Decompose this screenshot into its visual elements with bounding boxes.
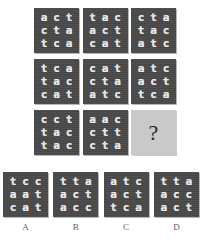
tile-letter: t: [112, 38, 124, 50]
tile-row: act: [135, 76, 172, 88]
tile-letter: a: [7, 189, 19, 201]
tile-letter: a: [20, 202, 32, 214]
tile-letter: c: [32, 176, 44, 188]
tile-row: tta: [158, 176, 195, 188]
tile-letter: c: [87, 140, 99, 152]
tile-letter: t: [160, 76, 172, 88]
tile-letter: t: [112, 25, 124, 37]
tile-letter: a: [51, 89, 63, 101]
tile-letter: t: [120, 176, 132, 188]
tile-letter: a: [51, 76, 63, 88]
tile-letter: t: [99, 89, 111, 101]
tile-letter: t: [135, 25, 147, 37]
tile-letter: c: [87, 38, 99, 50]
tile-letter: t: [112, 127, 124, 139]
tile-letter: t: [38, 38, 50, 50]
tile-row: aat: [7, 189, 44, 201]
tile-row: act: [38, 12, 75, 24]
tile-letter: a: [51, 140, 63, 152]
tile-letter: c: [63, 140, 75, 152]
tile-letter: t: [170, 176, 182, 188]
tile-letter: t: [158, 176, 170, 188]
tile-row: tta: [57, 176, 94, 188]
matrix-cell-1-1: actctatca: [34, 8, 79, 53]
tile-letter: c: [170, 202, 182, 214]
tile-letter: t: [38, 127, 50, 139]
tile-letter: a: [133, 202, 145, 214]
tile-row: cat: [38, 89, 75, 101]
tile-row: cct: [38, 114, 75, 126]
tile-row: act: [87, 25, 124, 37]
tile-row: act: [158, 202, 195, 214]
tile-letter: c: [120, 189, 132, 201]
option-b[interactable]: ttaactacc: [53, 172, 98, 217]
option-c-label: C: [104, 222, 149, 233]
tile-letter: c: [87, 63, 99, 75]
tile-letter: c: [51, 114, 63, 126]
tile-letter: c: [70, 189, 82, 201]
tile-letter: t: [63, 89, 75, 101]
tile-row: cat: [87, 63, 124, 75]
tile-row: atc: [87, 89, 124, 101]
tile-letter: a: [148, 25, 160, 37]
tile-letter: t: [57, 176, 69, 188]
tile-letter: c: [183, 189, 195, 201]
tile-letter: c: [99, 25, 111, 37]
tile-letter: c: [133, 176, 145, 188]
tile-letter: t: [135, 89, 147, 101]
tile-letter: t: [87, 12, 99, 24]
option-a-label: A: [3, 222, 48, 233]
tile-letter: a: [87, 89, 99, 101]
tile-letter: t: [148, 38, 160, 50]
matrix-cell-3-3[interactable]: ?: [131, 110, 176, 155]
tile-letter: c: [112, 114, 124, 126]
tile-letter: c: [38, 114, 50, 126]
tile-letter: c: [170, 189, 182, 201]
tile-letter: a: [158, 202, 170, 214]
tile-row: tcc: [7, 176, 44, 188]
tile-letter: c: [160, 25, 172, 37]
tile-letter: t: [32, 202, 44, 214]
matrix-cell-1-3: ctatacatc: [131, 8, 176, 53]
tile-row: cat: [7, 202, 44, 214]
tile-letter: a: [108, 176, 120, 188]
matrix-cell-1-2: tacactcat: [83, 8, 128, 53]
tile-letter: a: [135, 38, 147, 50]
tile-letter: t: [70, 176, 82, 188]
option-c[interactable]: atcacttca: [104, 172, 149, 217]
tile-letter: c: [87, 76, 99, 88]
tile-letter: a: [20, 189, 32, 201]
tile-letter: t: [183, 202, 195, 214]
tile-row: tca: [38, 38, 75, 50]
tile-letter: t: [99, 76, 111, 88]
option-d[interactable]: ttaaccact: [154, 172, 199, 217]
tile-letter: t: [32, 189, 44, 201]
tile-letter: c: [51, 38, 63, 50]
tile-letter: c: [63, 76, 75, 88]
tile-row: atc: [135, 38, 172, 50]
tile-row: aac: [87, 114, 124, 126]
tile-letter: t: [63, 114, 75, 126]
tile-letter: c: [160, 38, 172, 50]
option-a[interactable]: tccaatcat: [3, 172, 48, 217]
tile-letter: c: [20, 176, 32, 188]
tile-letter: a: [158, 189, 170, 201]
tile-letter: c: [148, 76, 160, 88]
tile-letter: t: [63, 12, 75, 24]
tile-letter: c: [51, 12, 63, 24]
tile-letter: t: [133, 189, 145, 201]
tile-row: cta: [38, 25, 75, 37]
tile-letter: t: [108, 202, 120, 214]
tile-letter: c: [87, 127, 99, 139]
tile-letter: a: [160, 12, 172, 24]
tile-letter: a: [63, 63, 75, 75]
matrix-cell-2-1: tcataccat: [34, 59, 79, 104]
matrix-grid: actctatcatacactcatctatacatctcataccatcatc…: [34, 8, 176, 155]
options-row: tccaatcatttaactaccatcacttcattaaccact: [3, 172, 199, 217]
tile-letter: c: [51, 63, 63, 75]
tile-letter: t: [38, 76, 50, 88]
tile-letter: c: [38, 89, 50, 101]
tile-letter: t: [7, 176, 19, 188]
tile-letter: t: [38, 63, 50, 75]
option-labels-row: ABCD: [3, 222, 199, 233]
